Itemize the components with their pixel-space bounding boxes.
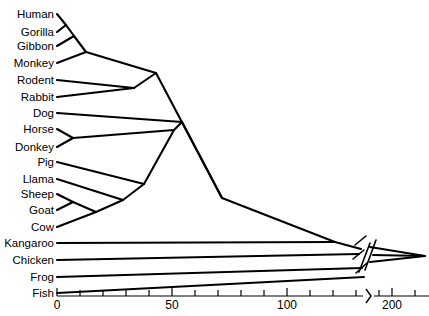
taxon-label-kangaroo: Kangaroo: [4, 237, 54, 249]
axis-tick-label-200: 200: [382, 298, 402, 312]
break-mark-root-b: [359, 243, 370, 272]
taxon-label-human: Human: [17, 8, 54, 20]
branch-pig: [57, 162, 144, 184]
taxon-label-rodent: Rodent: [17, 74, 54, 86]
branch-caprine-stem: [73, 202, 96, 212]
branch-sheep: [57, 194, 73, 202]
phylogenetic-tree-figure: HumanGorillaGibbonMonkeyRodentRabbitDogH…: [0, 0, 429, 316]
taxon-label-monkey: Monkey: [14, 57, 54, 69]
break-mark-upper: [355, 236, 366, 245]
branch-frog: [57, 268, 362, 277]
taxon-label-donkey: Donkey: [15, 141, 54, 153]
axis-break-symbol: [366, 289, 371, 303]
branch-chicken: [57, 254, 359, 260]
branch-hominoid-stem: [74, 36, 86, 52]
branch-rodent: [57, 80, 134, 88]
taxon-label-goat: Goat: [29, 204, 54, 216]
tree-canvas: [0, 0, 429, 316]
branch-gibbon: [57, 36, 74, 46]
branch-perissodactyl-stem: [73, 130, 174, 138]
branch-gorilla: [57, 25, 66, 32]
taxon-label-fish: Fish: [32, 287, 54, 299]
branch-horse: [57, 129, 73, 138]
branch-human: [57, 14, 66, 25]
branch-hominid-stem: [66, 25, 74, 36]
taxon-label-cow: Cow: [31, 221, 54, 233]
axis-tick-label-100: 100: [277, 298, 297, 312]
taxon-label-gibbon: Gibbon: [17, 40, 54, 52]
branch-donkey: [57, 138, 73, 147]
taxon-label-pig: Pig: [37, 156, 54, 168]
taxon-label-dog: Dog: [33, 107, 54, 119]
branch-goat: [57, 202, 73, 210]
branch-ruminant-stem: [123, 184, 144, 200]
taxon-label-llama: Llama: [23, 173, 54, 185]
branch-dog: [57, 113, 182, 122]
taxon-label-horse: Horse: [23, 123, 54, 135]
branch-monkey: [57, 52, 86, 63]
branch-bovid-stem: [96, 200, 123, 212]
branch-rabbit: [57, 88, 134, 97]
branch-artiodactyl-stem: [144, 130, 174, 184]
tree-branches: [57, 14, 425, 293]
branch-kangaroo: [57, 242, 335, 243]
taxon-label-rabbit: Rabbit: [21, 91, 54, 103]
taxon-label-sheep: Sheep: [21, 188, 54, 200]
branch-laurasiatheria-stem: [182, 122, 222, 198]
branch-cow: [57, 212, 96, 227]
branch-llama: [57, 179, 123, 200]
branch-tetrapod-resumed: [370, 256, 425, 262]
axis-tick-label-50: 50: [165, 298, 178, 312]
branch-placental-stem: [222, 198, 335, 242]
taxon-label-frog: Frog: [30, 271, 54, 283]
axis-tick-label-0: 0: [54, 298, 61, 312]
taxon-label-gorilla: Gorilla: [21, 26, 54, 38]
branch-primate-stem: [86, 52, 156, 73]
branch-fish-resumed: [373, 255, 425, 256]
branch-glires-stem: [134, 73, 156, 88]
branch-ungulate-stem: [174, 122, 182, 130]
taxon-label-chicken: Chicken: [12, 254, 54, 266]
